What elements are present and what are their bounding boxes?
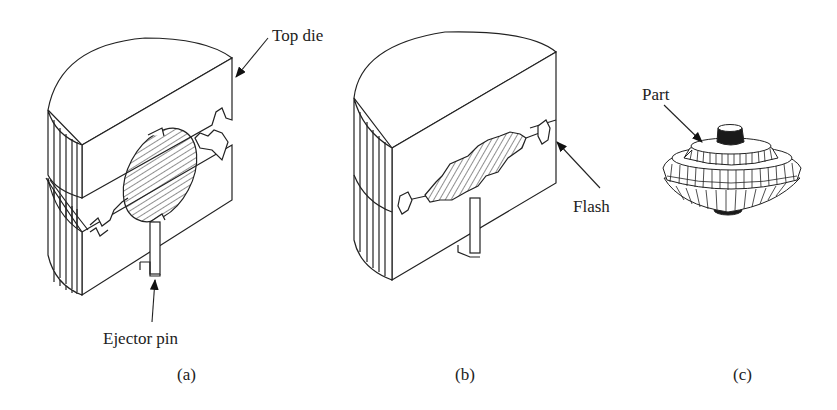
- ejector-pin-arrow: [152, 280, 155, 322]
- part-label: Part: [642, 86, 669, 103]
- panel-a-drawing: [46, 38, 232, 295]
- top-die-label: Top die: [272, 27, 323, 44]
- panel-b-drawing: [354, 32, 556, 280]
- flash-arrow: [557, 142, 600, 188]
- caption-b: (b): [455, 366, 475, 383]
- closed-die-forging-figure: Top die Ejector pin Flash Part (a) (b) (…: [0, 0, 837, 410]
- figure-drawing: [0, 0, 837, 410]
- caption-a: (a): [177, 366, 196, 383]
- panel-c-drawing: [663, 125, 801, 216]
- part-arrow: [664, 105, 702, 142]
- top-die-arrow: [236, 38, 268, 77]
- ejector-pin-label: Ejector pin: [103, 330, 178, 347]
- flash-label: Flash: [573, 198, 610, 215]
- caption-c: (c): [733, 366, 752, 383]
